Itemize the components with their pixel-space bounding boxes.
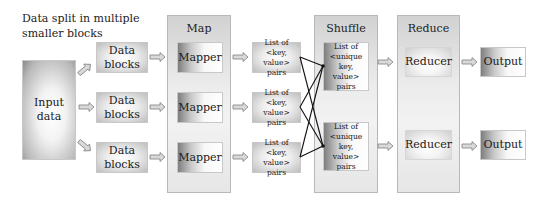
shuffle-join-dot-2 xyxy=(321,144,325,148)
shuffle-cross-lines xyxy=(300,57,323,157)
arrow-input-to-block-2 xyxy=(79,103,94,112)
arrow-input-to-block-3 xyxy=(76,138,93,155)
arrow-block-to-map-3 xyxy=(150,153,165,162)
arrow-input-to-block-1 xyxy=(76,61,93,78)
arrow-shuffle-to-reducer-2 xyxy=(378,142,393,151)
arrow-shuffle-to-reducer-1 xyxy=(378,58,393,67)
arrow-reducer-to-output-1 xyxy=(462,58,477,67)
arrow-reducer-to-output-2 xyxy=(462,142,477,151)
arrow-block-to-map-1 xyxy=(150,53,165,62)
arrow-mapper-to-kv-3 xyxy=(233,153,248,162)
shuffle-join-dot-1 xyxy=(321,64,325,68)
arrow-mapper-to-kv-1 xyxy=(233,53,248,62)
arrow-block-to-map-2 xyxy=(150,103,165,112)
arrow-mapper-to-kv-2 xyxy=(233,103,248,112)
connectors-layer xyxy=(0,0,547,203)
